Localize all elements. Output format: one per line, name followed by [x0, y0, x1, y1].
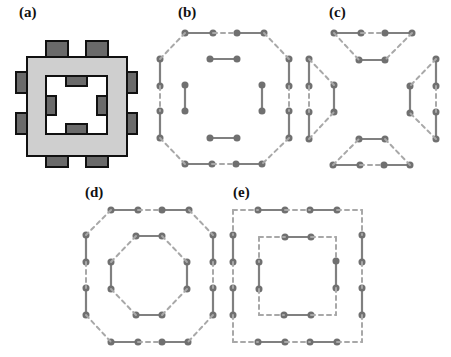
panel-a-inner-tabs — [46, 76, 107, 134]
panel-e-graph — [233, 210, 362, 342]
panel-c-graph — [309, 33, 436, 165]
panel-a-ring — [16, 41, 137, 167]
panel-d-graph — [86, 210, 213, 342]
figure-canvas — [0, 0, 451, 357]
panel-b-graph — [160, 33, 289, 164]
